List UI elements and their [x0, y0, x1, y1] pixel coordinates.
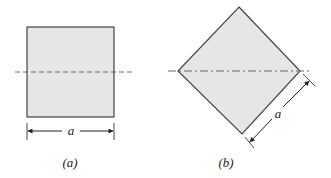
extension-line-top [303, 74, 315, 86]
dimension-label-a: a [68, 123, 75, 138]
figure-a: a (a) [15, 27, 133, 170]
dimension-label-a: a [275, 106, 282, 121]
caption-b: (b) [218, 155, 233, 170]
caption-a: (a) [62, 155, 77, 170]
diagram-canvas: a (a) a (b) [0, 0, 331, 178]
figure-b: a (b) [168, 7, 315, 170]
